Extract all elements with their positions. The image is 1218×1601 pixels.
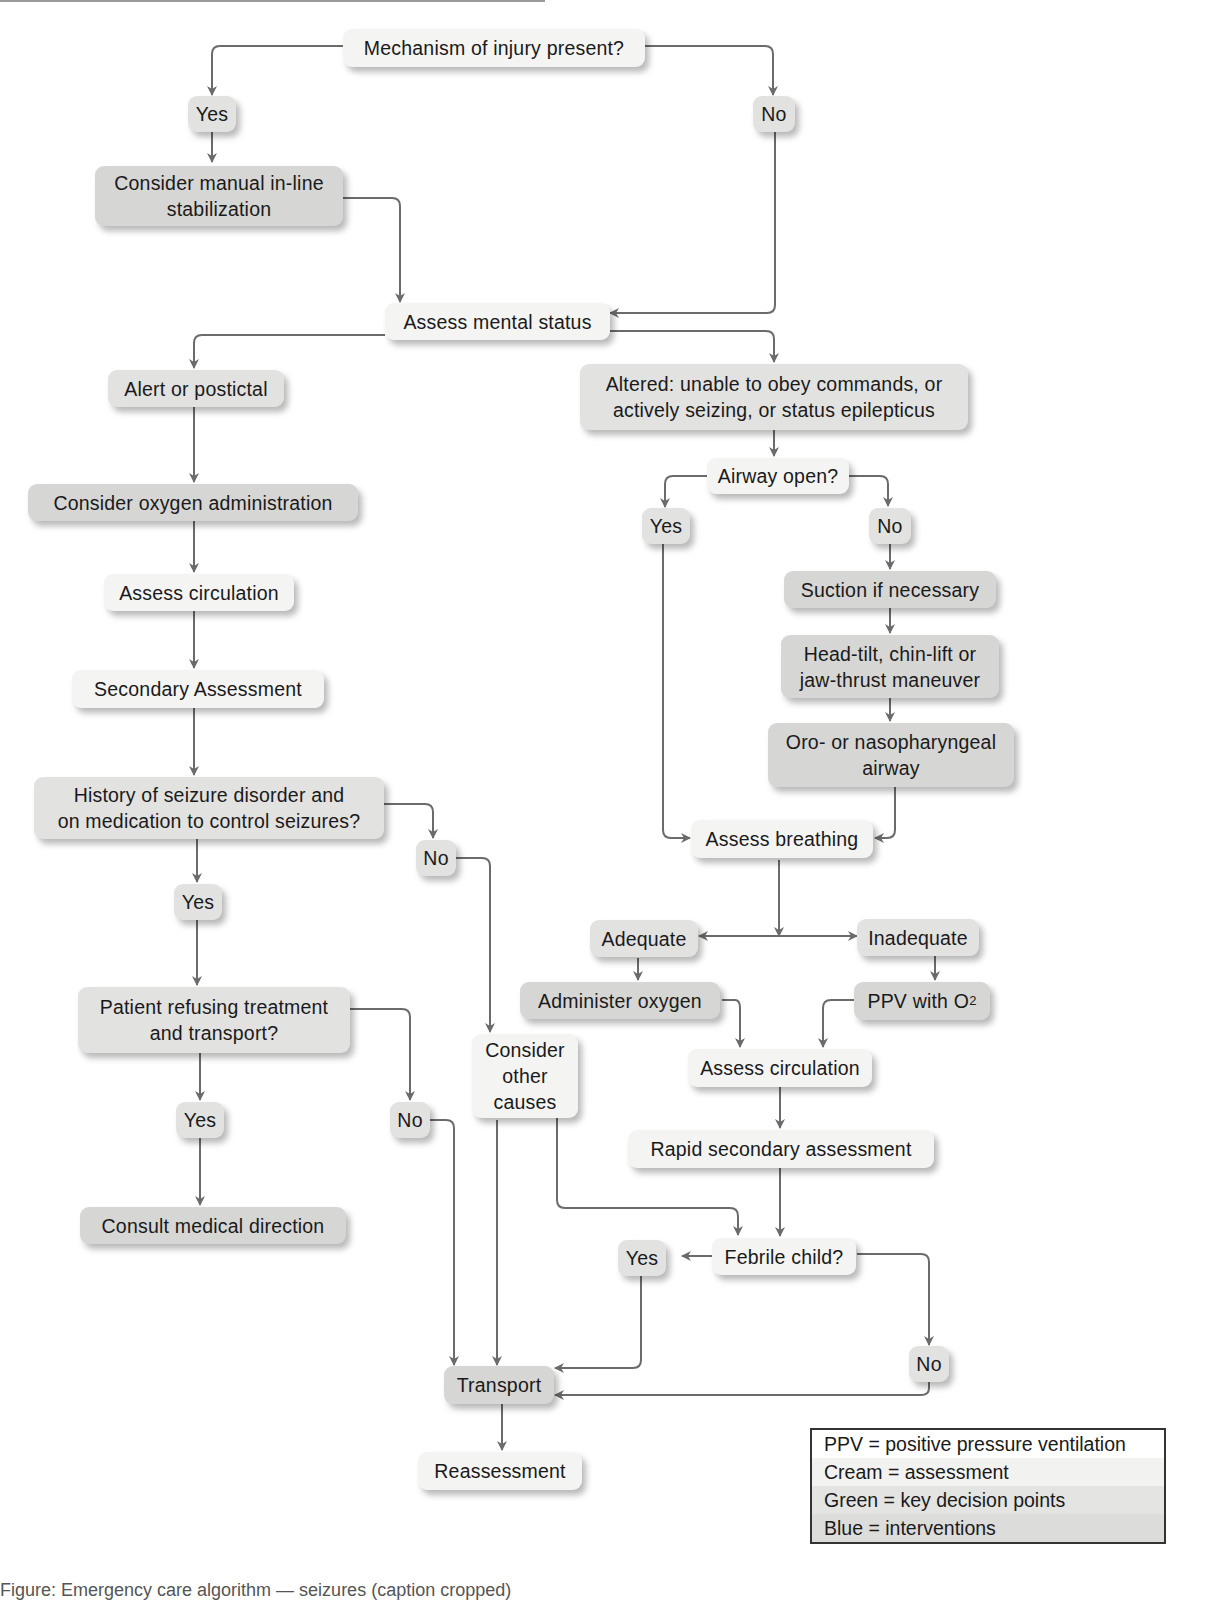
legend-row-cream: Cream = assessment bbox=[812, 1458, 1164, 1486]
ppv-label: PPV with O bbox=[867, 988, 969, 1014]
consider-oxygen-step: Consider oxygen administration bbox=[28, 484, 358, 521]
oro-nasopharyngeal-airway-step: Oro- or nasopharyngeal airway bbox=[768, 723, 1014, 787]
febrile-no-label: No bbox=[909, 1346, 949, 1382]
legend-row-green: Green = key decision points bbox=[812, 1486, 1164, 1514]
refusing-no-label: No bbox=[390, 1102, 430, 1138]
mechanism-no-label: No bbox=[753, 96, 795, 132]
legend-row-blue: Blue = interventions bbox=[812, 1514, 1164, 1542]
rapid-secondary-assessment-step: Rapid secondary assessment bbox=[628, 1130, 934, 1168]
legend-row-ppv: PPV = positive pressure ventilation bbox=[812, 1430, 1164, 1458]
alert-or-postictal-branch: Alert or postictal bbox=[108, 370, 284, 407]
history-yes-label: Yes bbox=[174, 884, 222, 920]
administer-oxygen-step: Administer oxygen bbox=[520, 982, 720, 1019]
airway-open-decision: Airway open? bbox=[707, 458, 849, 494]
febrile-yes-label: Yes bbox=[618, 1240, 666, 1276]
consult-medical-direction-step: Consult medical direction bbox=[80, 1207, 346, 1244]
febrile-child-decision: Febrile child? bbox=[712, 1238, 856, 1275]
assess-circulation-right-step: Assess circulation bbox=[688, 1049, 872, 1087]
mechanism-yes-label: Yes bbox=[188, 96, 236, 132]
manual-stabilization-step: Consider manual in-line stabilization bbox=[95, 166, 343, 226]
assess-mental-status-step: Assess mental status bbox=[385, 303, 610, 340]
secondary-assessment-step: Secondary Assessment bbox=[72, 670, 324, 708]
refusing-yes-label: Yes bbox=[176, 1102, 224, 1138]
ppv-with-oxygen-step: PPV with O2 bbox=[854, 982, 990, 1020]
transport-step: Transport bbox=[444, 1366, 554, 1404]
assess-circulation-left-step: Assess circulation bbox=[104, 574, 294, 611]
mechanism-of-injury-decision: Mechanism of injury present? bbox=[343, 29, 645, 67]
airway-yes-label: Yes bbox=[642, 508, 690, 544]
breathing-inadequate-label: Inadequate bbox=[857, 919, 979, 956]
airway-no-label: No bbox=[869, 508, 911, 544]
consider-other-causes-step: Consider other causes bbox=[472, 1034, 578, 1118]
color-legend: PPV = positive pressure ventilation Crea… bbox=[810, 1428, 1166, 1544]
figure-caption-cropped: Figure: Emergency care algorithm — seizu… bbox=[0, 1580, 511, 1601]
reassessment-step: Reassessment bbox=[418, 1452, 582, 1490]
assess-breathing-step: Assess breathing bbox=[691, 820, 873, 858]
suction-step: Suction if necessary bbox=[784, 571, 996, 608]
altered-mental-status-branch: Altered: unable to obey commands, or act… bbox=[580, 364, 968, 430]
patient-refusing-decision: Patient refusing treatment and transport… bbox=[78, 987, 350, 1053]
head-tilt-chin-lift-step: Head-tilt, chin-lift or jaw-thrust maneu… bbox=[781, 635, 999, 698]
history-no-label: No bbox=[416, 840, 456, 876]
breathing-adequate-label: Adequate bbox=[590, 920, 698, 957]
seizure-history-decision: History of seizure disorder and on medic… bbox=[34, 777, 384, 839]
